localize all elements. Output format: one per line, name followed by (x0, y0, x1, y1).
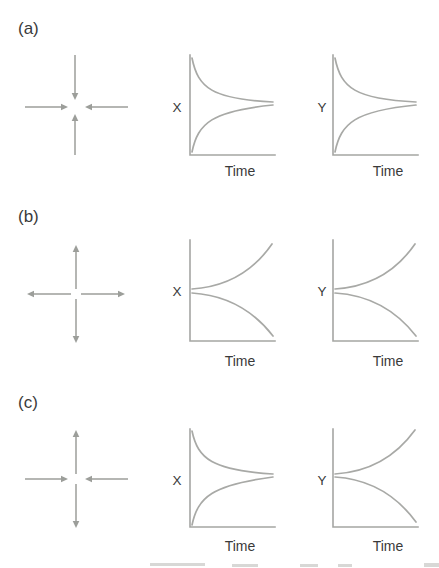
top-inward-arrowhead-icon (72, 93, 79, 100)
panel-c-y-plot: Y Time (317, 429, 418, 554)
panel-a-y-plot-upper-curve (335, 58, 416, 102)
panel-a: (a) X Time Y Time (18, 19, 418, 179)
panel-a-x-plot-lower-curve (192, 105, 273, 152)
panel-c: (c) X Time Y Time (18, 393, 418, 554)
panel-c-label: (c) (18, 393, 38, 412)
panel-a-x-plot: X Time (172, 55, 275, 179)
left-inward-arrowhead-icon (61, 104, 68, 111)
left-outward-arrowhead-icon (27, 291, 34, 298)
right-inward-arrowhead-icon (85, 104, 92, 111)
panel-b-x-plot-upper-curve (192, 244, 272, 289)
top-outward-arrowhead-icon (73, 430, 80, 437)
panel-b-y-plot-ylabel: Y (317, 284, 326, 299)
stability-figure-canvas: (a) X Time Y Time (b) (0, 0, 439, 568)
panel-a-y-plot: Y Time (317, 55, 418, 179)
stability-figure: (a) X Time Y Time (b) (0, 0, 439, 568)
panel-b: (b) X Time Y Time (18, 207, 418, 369)
bottom-outward-arrowhead-icon (73, 521, 80, 528)
panel-b-y-plot-lower-curve (335, 293, 416, 336)
panel-b-y-plot-time-label: Time (373, 353, 404, 369)
panel-a-flow-arrows (25, 55, 128, 155)
panel-c-y-plot-time-label: Time (373, 538, 404, 554)
panel-b-label: (b) (18, 207, 39, 226)
panel-b-x-plot-ylabel: X (172, 284, 181, 299)
panel-a-y-plot-axes (333, 55, 418, 155)
panel-c-x-plot-upper-curve (192, 431, 273, 474)
panel-c-y-plot-upper-curve (335, 430, 415, 474)
bottom-inward-arrowhead-icon (72, 114, 79, 121)
panel-b-y-plot: Y Time (317, 240, 418, 369)
panel-c-x-plot-ylabel: X (172, 473, 181, 488)
panel-c-y-plot-ylabel: Y (317, 473, 326, 488)
panel-a-x-plot-time-label: Time (225, 163, 256, 179)
left-inward-arrowhead-icon (61, 476, 68, 483)
panel-a-y-plot-ylabel: Y (317, 100, 326, 115)
right-inward-arrowhead-icon (85, 476, 92, 483)
bottom-outward-arrowhead-icon (73, 336, 80, 343)
panel-c-flow-arrows (25, 430, 128, 528)
panel-c-y-plot-lower-curve (335, 477, 416, 522)
panel-a-y-plot-lower-curve (335, 105, 416, 152)
panel-c-x-plot-lower-curve (192, 477, 273, 525)
panel-a-x-plot-axes (190, 55, 275, 155)
panel-b-flow-arrows (27, 245, 125, 343)
panel-c-x-plot-time-label: Time (225, 538, 256, 554)
panel-a-x-plot-upper-curve (192, 58, 273, 102)
top-outward-arrowhead-icon (73, 245, 80, 252)
panel-b-y-plot-upper-curve (335, 244, 415, 289)
panel-a-label: (a) (18, 19, 39, 38)
panel-b-x-plot-time-label: Time (225, 353, 256, 369)
panel-a-x-plot-ylabel: X (172, 100, 181, 115)
panel-a-y-plot-time-label: Time (373, 163, 404, 179)
right-outward-arrowhead-icon (118, 291, 125, 298)
panel-b-x-plot: X Time (172, 240, 275, 369)
panel-b-x-plot-lower-curve (192, 293, 273, 336)
cropped-caption-artifact (150, 563, 439, 567)
panel-c-x-plot: X Time (172, 429, 275, 554)
